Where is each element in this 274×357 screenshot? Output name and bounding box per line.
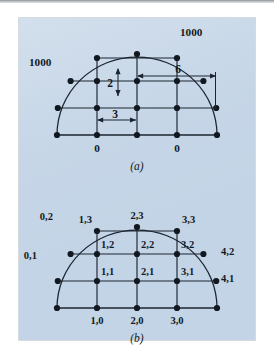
- node-a: [174, 132, 180, 138]
- boundary-node-b: [68, 251, 74, 257]
- node-label-3-3: 3,3: [182, 214, 195, 225]
- node-a: [134, 78, 140, 84]
- node-label-3-1: 3,1: [181, 266, 194, 277]
- node-label-1-3: 1,3: [79, 214, 92, 225]
- boundary-node-b: [200, 251, 206, 257]
- node-b: [94, 278, 100, 284]
- panel-a-group: 2 3 6 1000 1000 0 0 (a): [29, 26, 220, 173]
- boundary-node-a: [174, 55, 180, 61]
- panel-b-group: 0,1 0,2 1,0 1,1 1,2 1,3 2,0 2,1 2,2 2,3 …: [24, 210, 235, 345]
- node-b: [134, 305, 140, 311]
- node-b: [134, 251, 140, 257]
- boundary-node-b: [55, 278, 61, 284]
- node-label-3-0: 3,0: [170, 315, 183, 326]
- boundary-node-a: [213, 105, 219, 111]
- node-a: [94, 105, 100, 111]
- node-a: [174, 105, 180, 111]
- node-a: [94, 132, 100, 138]
- node-b: [214, 305, 220, 311]
- boundary-node-a: [94, 55, 100, 61]
- boundary-node-a: [200, 78, 206, 84]
- boundary-node-b: [94, 228, 100, 234]
- bc-label-right-1000: 1000: [180, 26, 203, 38]
- node-a: [214, 132, 220, 138]
- node-label-0-2: 0,2: [40, 211, 53, 222]
- bc-label-left-1000: 1000: [29, 56, 52, 68]
- node-b: [134, 278, 140, 284]
- node-label-3-2: 3,2: [181, 239, 194, 250]
- node-label-2-3: 2,3: [130, 210, 143, 221]
- node-b: [174, 251, 180, 257]
- bc-label-bottom-right-0: 0: [174, 142, 180, 154]
- node-b: [174, 278, 180, 284]
- node-label-4-2: 4,2: [221, 246, 234, 257]
- figure-root: 2 3 6 1000 1000 0 0 (a): [0, 0, 274, 357]
- node-a: [54, 132, 60, 138]
- node-label-2-0: 2,0: [130, 315, 143, 326]
- node-label-4-1: 4,1: [221, 273, 234, 284]
- caption-b: (b): [130, 332, 144, 345]
- node-label-2-1: 2,1: [141, 266, 154, 277]
- node-label-1-1: 1,1: [101, 266, 114, 277]
- figure-drawing: 2 3 6 1000 1000 0 0 (a): [0, 0, 274, 357]
- node-b: [134, 224, 140, 230]
- node-label-1-2: 1,2: [101, 239, 114, 250]
- boundary-node-a: [55, 105, 61, 111]
- node-label-1-0: 1,0: [90, 315, 103, 326]
- dim-label-3: 3: [112, 108, 118, 120]
- node-b: [174, 305, 180, 311]
- boundary-node-b: [213, 278, 219, 284]
- node-a: [174, 78, 180, 84]
- node-a: [94, 78, 100, 84]
- caption-a: (a): [130, 160, 144, 173]
- node-a: [134, 105, 140, 111]
- node-a: [134, 132, 140, 138]
- dim-label-6: 6: [175, 63, 181, 75]
- boundary-node-b: [174, 228, 180, 234]
- node-b: [94, 251, 100, 257]
- node-label-2-2: 2,2: [141, 239, 154, 250]
- node-b: [54, 305, 60, 311]
- bc-label-bottom-left-0: 0: [94, 142, 100, 154]
- dim-label-2: 2: [107, 77, 113, 89]
- node-b: [94, 305, 100, 311]
- node-label-0-1: 0,1: [24, 250, 37, 261]
- boundary-node-a: [68, 78, 74, 84]
- node-a: [134, 51, 140, 57]
